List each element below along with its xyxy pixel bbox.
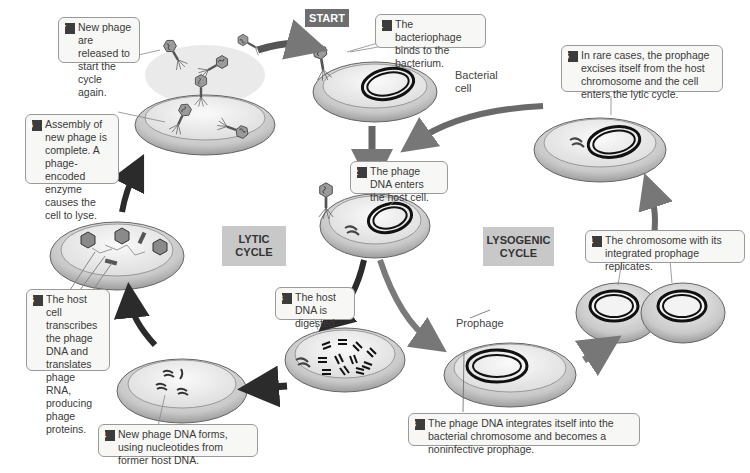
lysogenic-step-4-callout: 4The chromosome with its integrated prop… [585, 230, 745, 263]
lytic-step-5-callout: 5The host cell transcribes the phage DNA… [26, 289, 110, 371]
step-number-badge: 7 [65, 23, 75, 34]
step-number-badge: 1 [382, 20, 392, 31]
step-number-badge: 5 [33, 295, 43, 306]
cell-lytic-step4 [117, 359, 247, 423]
step-text: The chromosome with its integrated proph… [605, 234, 722, 272]
step-text: The bacteriophage binds to the bacterium… [395, 18, 462, 69]
cell-lysogenic-step3 [444, 343, 576, 412]
step-text: The host cell transcribes the phage DNA … [46, 293, 97, 435]
start-label: START [305, 9, 349, 27]
lytic-step-2-callout: 2The phage DNA enters the host cell. [350, 161, 448, 194]
step-number-badge: 4 [592, 236, 602, 247]
step-text: The phage DNA integrates itself into the… [428, 417, 614, 455]
step-text: The host DNA is digested. [295, 291, 338, 329]
lysogenic-cycle-label: LYSOGENIC CYCLE [483, 227, 554, 266]
lytic-cycle-label: LYTIC CYCLE [222, 226, 286, 266]
step-text: New phage DNA forms, using nucleotides f… [118, 428, 228, 466]
lytic-step-3-callout: 3The host DNA is digested. [275, 287, 355, 320]
bacterial-cell-label: Bacterial cell [455, 69, 498, 95]
cell-lysogenic-step5 [534, 118, 666, 182]
cell-lytic-step3 [285, 328, 405, 392]
step-number-badge: 4 [105, 430, 115, 441]
lytic-step-4-callout: 4New phage DNA forms, using nucleotides … [98, 424, 258, 457]
step-number-badge: 3 [415, 419, 425, 430]
prophage-label: Prophage [456, 317, 504, 330]
step-number-badge: 6 [32, 120, 42, 131]
step-text: In rare cases, the prophage excises itse… [581, 49, 709, 100]
lysogenic-step-5-callout: 5In rare cases, the prophage excises its… [561, 45, 723, 92]
step-text: Assembly of new phage is complete. A pha… [45, 118, 107, 221]
step-number-badge: 2 [357, 167, 367, 178]
lytic-step-1-callout: 1The bacteriophage binds to the bacteriu… [375, 14, 486, 48]
lysogenic-step-3-callout: 3The phage DNA integrates itself into th… [408, 413, 640, 446]
cell-lysogenic-step4 [576, 283, 725, 343]
step-text: New phage are released to start the cycl… [78, 21, 131, 98]
lytic-step-7-callout: 7New phage are released to start the cyc… [58, 17, 140, 63]
step-number-badge: 5 [568, 51, 578, 62]
lytic-step-6-callout: 6Assembly of new phage is complete. A ph… [25, 114, 119, 184]
step-text: The phage DNA enters the host cell. [370, 165, 429, 203]
cell-lytic-step5 [50, 222, 184, 290]
step-number-badge: 3 [282, 293, 292, 304]
